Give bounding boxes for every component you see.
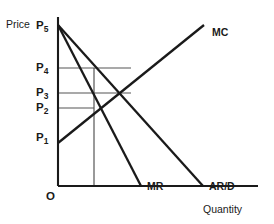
axes-lines — [58, 17, 258, 186]
price-label-base: P — [36, 101, 44, 113]
price-label-base: P — [36, 131, 44, 143]
curve-line-AR-D — [58, 25, 203, 186]
guide-lines — [58, 68, 131, 186]
origin-label: O — [46, 191, 55, 203]
price-label-P3: P3 — [36, 87, 48, 99]
price-label-subscript: 3 — [44, 91, 49, 101]
price-label-P4: P4 — [36, 62, 48, 74]
price-label-base: P — [36, 61, 44, 73]
curve-line-MR — [58, 25, 141, 186]
price-label-subscript: 1 — [44, 136, 49, 146]
curve-line-MC — [58, 25, 204, 143]
curve-lines — [58, 25, 204, 186]
price-label-P2: P2 — [36, 102, 48, 114]
price-label-subscript: 2 — [44, 106, 49, 116]
price-label-subscript: 4 — [44, 66, 49, 76]
price-label-subscript: 5 — [44, 24, 49, 34]
economics-diagram: Price Quantity O P5P4P3P2P1 MCAR/DMR — [0, 0, 274, 224]
y-axis-title: Price — [6, 19, 30, 30]
price-label-P5: P5 — [36, 20, 48, 32]
price-label-base: P — [36, 19, 44, 31]
x-axis-title: Quantity — [203, 204, 242, 215]
curve-label-MC: MC — [212, 27, 228, 38]
curve-label-AR-D: AR/D — [209, 181, 235, 192]
price-label-P1: P1 — [36, 132, 48, 144]
price-label-base: P — [36, 86, 44, 98]
curve-label-MR: MR — [147, 181, 163, 192]
